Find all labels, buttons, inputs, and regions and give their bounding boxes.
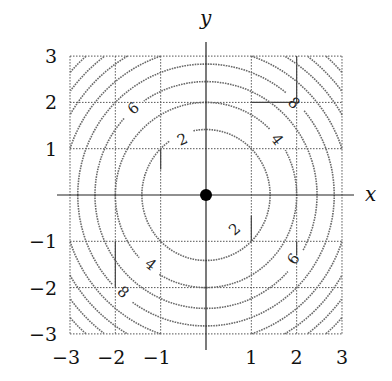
tick-labels: −3−2−1123321−1−2−3 [29, 45, 348, 368]
y-tick-label: 3 [45, 45, 57, 67]
y-tick-label: −2 [29, 277, 57, 299]
y-tick-label: −3 [29, 323, 57, 345]
y-axis-label: y [199, 6, 212, 30]
contour-label: 4 [267, 130, 287, 149]
x-tick-label: −1 [143, 346, 171, 368]
x-tick-label: 3 [336, 346, 348, 368]
contour-label: 8 [284, 93, 303, 113]
contour-label: 4 [141, 254, 160, 274]
x-tick-label: −2 [97, 346, 125, 368]
y-tick-label: 1 [45, 138, 57, 160]
contour-plot: 26482648 −3−2−1123321−1−2−3 x y [0, 0, 392, 381]
contour-label: 8 [114, 282, 133, 302]
x-tick-label: 2 [291, 346, 303, 368]
y-tick-label: −1 [29, 230, 57, 252]
contour-label: 6 [124, 98, 143, 118]
contour-label: 2 [225, 219, 244, 239]
origin-point-marker [200, 189, 212, 201]
contour-label: 2 [174, 129, 190, 149]
y-tick-label: 2 [45, 91, 57, 113]
x-axis-label: x [365, 182, 376, 206]
x-tick-label: −3 [52, 346, 80, 368]
x-tick-label: 1 [245, 346, 257, 368]
contour-label: 6 [283, 250, 303, 268]
